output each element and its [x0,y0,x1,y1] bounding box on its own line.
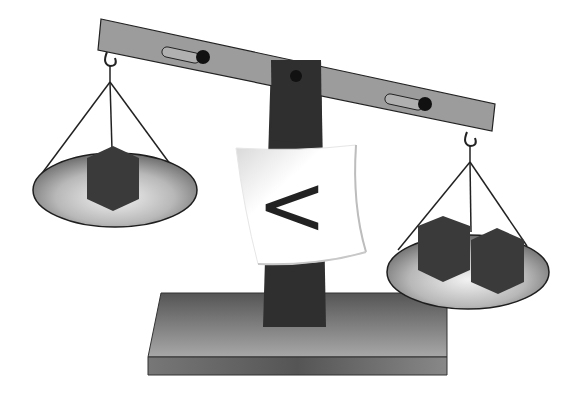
right-cube-2 [471,228,524,294]
right-cube-1 [418,216,470,282]
left-pan [33,52,197,227]
right-slider-knob [418,97,432,111]
comparison-card: < [236,145,366,264]
left-hook-icon [105,52,116,66]
pivot-pin [290,70,302,82]
left-slider-knob [196,50,210,64]
scale-beam [98,19,495,145]
base-front-face [148,357,447,375]
left-cube [87,146,139,211]
right-hook-icon [465,132,476,146]
right-pan [387,132,549,309]
balance-scale-illustration: < [0,0,576,395]
less-than-symbol: < [257,156,327,254]
